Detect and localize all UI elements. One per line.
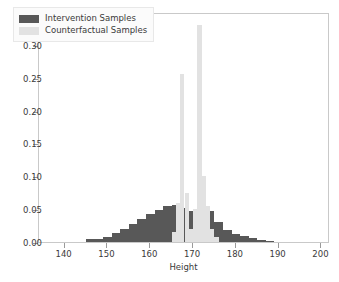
- x-tick-mark: [235, 243, 236, 248]
- y-tick-label: 0.05: [8, 206, 42, 214]
- bar-intervention: [249, 238, 258, 242]
- y-tick-label: 0.15: [8, 140, 42, 148]
- x-tick-mark: [64, 243, 65, 248]
- bar-counterfactual: [214, 237, 218, 242]
- x-tick-mark: [149, 243, 150, 248]
- bar-intervention: [120, 229, 129, 242]
- bar-intervention: [86, 239, 95, 242]
- y-tick-label: 0.20: [8, 108, 42, 116]
- x-tick-mark: [320, 243, 321, 248]
- x-tick-label: 190: [261, 250, 295, 259]
- x-tick-mark: [278, 243, 279, 248]
- y-tick-label: 0.25: [8, 75, 42, 83]
- x-tick-label: 140: [47, 250, 81, 259]
- x-axis-label: Height: [38, 262, 329, 272]
- legend-label-intervention: Intervention Samples: [45, 14, 136, 23]
- legend-item-counterfactual: Counterfactual Samples: [19, 25, 147, 36]
- x-tick-label: 160: [132, 250, 166, 259]
- bars-layer: [39, 14, 328, 242]
- x-tick-mark: [106, 243, 107, 248]
- bar-intervention: [240, 236, 249, 242]
- bar-intervention: [129, 224, 138, 242]
- bar-intervention: [146, 214, 155, 242]
- histogram-figure: 0.000.050.100.150.200.250.300.35 1401501…: [0, 0, 339, 282]
- legend-item-intervention: Intervention Samples: [19, 13, 147, 24]
- bar-intervention: [223, 230, 232, 242]
- x-tick-label: 200: [303, 250, 337, 259]
- x-tick-label: 170: [175, 250, 209, 259]
- bar-intervention: [103, 237, 112, 242]
- y-tick-label: 0.00: [8, 239, 42, 247]
- bar-intervention: [266, 241, 275, 242]
- legend-swatch-counterfactual: [19, 27, 39, 35]
- x-tick-mark: [192, 243, 193, 248]
- bar-intervention: [95, 239, 104, 242]
- bar-intervention: [232, 234, 241, 242]
- legend-swatch-intervention: [19, 15, 39, 23]
- y-tick-label: 0.10: [8, 173, 42, 181]
- x-tick-label: 180: [218, 250, 252, 259]
- bar-intervention: [163, 206, 172, 242]
- x-tick-label: 150: [89, 250, 123, 259]
- bar-intervention: [112, 233, 121, 242]
- plot-area: [38, 13, 329, 243]
- legend-label-counterfactual: Counterfactual Samples: [45, 26, 147, 35]
- chart-legend: Intervention Samples Counterfactual Samp…: [13, 7, 154, 42]
- y-tick-label: 0.30: [8, 42, 42, 50]
- bar-intervention: [137, 219, 146, 242]
- bar-intervention: [155, 210, 164, 242]
- bar-intervention: [257, 240, 266, 242]
